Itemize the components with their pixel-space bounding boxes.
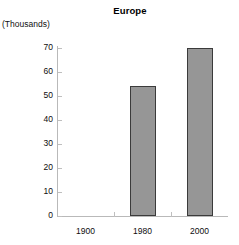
y-axis-tick [58, 144, 62, 145]
x-axis-tick-label: 1980 [120, 226, 166, 236]
y-axis-tick-label: 30 [20, 139, 53, 148]
y-axis-tick [58, 48, 62, 49]
y-axis-tick-label: 70 [20, 43, 53, 52]
y-axis-tick-label: 50 [20, 91, 53, 100]
chart-title: Europe [80, 5, 180, 16]
y-axis-tick [58, 96, 62, 97]
y-axis-tick [58, 168, 62, 169]
y-axis-tick-label: 20 [20, 163, 53, 172]
bar-1980 [130, 86, 156, 216]
x-axis-tick [171, 212, 172, 217]
x-axis-line [57, 216, 228, 217]
y-axis-tick [58, 216, 62, 217]
y-axis-tick-label: 10 [20, 187, 53, 196]
y-axis-tick-label: 0 [20, 211, 53, 220]
x-axis-tick-label: 1900 [63, 226, 109, 236]
bar-2000 [187, 48, 213, 216]
y-axis-tick-label: 60 [20, 67, 53, 76]
x-axis-tick [114, 212, 115, 217]
y-axis-tick-label: 40 [20, 115, 53, 124]
y-axis-tick [58, 192, 62, 193]
axis-units-caption: (Thousands) [2, 19, 50, 29]
y-axis-tick [58, 72, 62, 73]
y-axis-tick [58, 120, 62, 121]
bar-chart: Europe (Thousands) 010203040506070 19001… [0, 0, 239, 245]
x-axis-tick-label: 2000 [177, 226, 223, 236]
